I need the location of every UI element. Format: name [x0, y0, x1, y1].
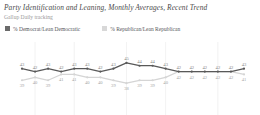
data-label: 41 [59, 77, 64, 82]
data-label: 42 [176, 75, 181, 80]
data-label: 39 [111, 83, 116, 88]
data-label: 42 [216, 75, 221, 80]
data-point [125, 82, 127, 84]
series-line-democrat [22, 63, 244, 72]
data-label: 42 [176, 65, 181, 70]
data-label: 39 [137, 83, 142, 88]
chart-legend: % Democrat/Lean Democratic % Republican/… [4, 24, 256, 33]
data-point [73, 73, 75, 75]
data-label: 40 [163, 80, 168, 85]
data-label: 40 [85, 80, 90, 85]
legend-swatch-democrat-icon [5, 26, 10, 31]
chart-subtitle: Gallup Daily tracking [4, 13, 256, 21]
legend-item-democrat: % Democrat/Lean Democratic [5, 26, 80, 32]
data-label: 38 [124, 86, 129, 91]
data-label: 41 [242, 77, 247, 82]
data-label: 40 [98, 80, 103, 85]
chart-container: Party Identification and Leaning, Monthl… [0, 0, 260, 115]
data-point [34, 76, 36, 78]
data-label: 41 [72, 77, 77, 82]
data-point [243, 73, 245, 75]
data-label: 43 [85, 62, 90, 67]
data-point [165, 76, 167, 78]
data-point [165, 68, 167, 70]
data-point [86, 76, 88, 78]
data-point [151, 65, 153, 67]
data-label: 42 [59, 65, 64, 70]
chart-title: Party Identification and Leaning, Monthl… [4, 3, 256, 12]
data-point [47, 79, 49, 81]
data-label: 42 [216, 65, 221, 70]
data-label: 39 [46, 83, 51, 88]
data-label: 42 [189, 75, 194, 80]
data-point [217, 70, 219, 72]
data-label: 42 [98, 65, 103, 70]
data-label: 42 [203, 65, 208, 70]
data-point [47, 68, 49, 70]
data-label: 42 [229, 65, 234, 70]
legend-label-democrat: % Democrat/Lean Democratic [13, 26, 80, 32]
chart-plot-area: 3940394141404039383939404242424242414342… [0, 40, 260, 115]
series-line-republican [22, 72, 244, 84]
legend-swatch-republican-icon [102, 26, 107, 31]
data-label: 40 [33, 80, 38, 85]
data-point [60, 73, 62, 75]
data-point [60, 70, 62, 72]
data-point [21, 68, 23, 70]
data-label: 39 [20, 83, 25, 88]
data-point [34, 70, 36, 72]
data-point [86, 68, 88, 70]
data-label: 42 [203, 75, 208, 80]
data-label: 43 [242, 62, 247, 67]
data-label: 44 [150, 59, 155, 64]
data-point [73, 68, 75, 70]
data-label: 42 [33, 65, 38, 70]
data-point [151, 79, 153, 81]
data-point [125, 62, 127, 64]
data-label: 43 [72, 62, 77, 67]
data-label: 43 [46, 62, 51, 67]
legend-item-republican: % Republican/Lean Republican [102, 26, 180, 32]
data-point [138, 79, 140, 81]
data-point [178, 70, 180, 72]
data-label: 45 [124, 56, 129, 61]
data-label: 42 [229, 75, 234, 80]
data-label: 43 [111, 62, 116, 67]
data-point [204, 70, 206, 72]
data-label: 44 [137, 59, 142, 64]
data-label: 43 [20, 62, 25, 67]
data-label: 42 [189, 65, 194, 70]
data-label: 39 [150, 83, 155, 88]
data-point [138, 65, 140, 67]
data-point [112, 68, 114, 70]
data-point [112, 79, 114, 81]
chart-svg: 3940394141404039383939404242424242414342… [0, 40, 260, 115]
data-point [230, 70, 232, 72]
data-point [243, 68, 245, 70]
legend-label-republican: % Republican/Lean Republican [110, 26, 180, 32]
data-point [99, 76, 101, 78]
data-point [99, 70, 101, 72]
data-point [191, 70, 193, 72]
data-point [21, 79, 23, 81]
data-label: 43 [163, 62, 168, 67]
